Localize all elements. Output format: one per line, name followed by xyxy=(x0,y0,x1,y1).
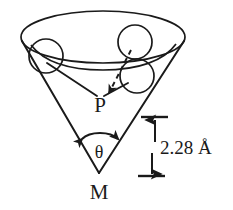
cone-rim-ellipse xyxy=(21,11,185,63)
cone-diagram-svg: P θ M 2.28 Å xyxy=(0,0,233,210)
atom-upper-right-circle xyxy=(118,25,152,59)
point-p-label: P xyxy=(94,93,106,117)
atom-lower-right-circle xyxy=(120,59,154,93)
cone-left-edge xyxy=(22,41,99,173)
angle-theta-label: θ xyxy=(95,142,104,162)
p-to-atom-lower-right-line xyxy=(104,83,128,96)
distance-label: 2.28 Å xyxy=(160,137,212,158)
angle-arc xyxy=(82,133,118,139)
apex-m-label: M xyxy=(90,180,109,204)
figure-container: P θ M 2.28 Å xyxy=(0,0,233,210)
